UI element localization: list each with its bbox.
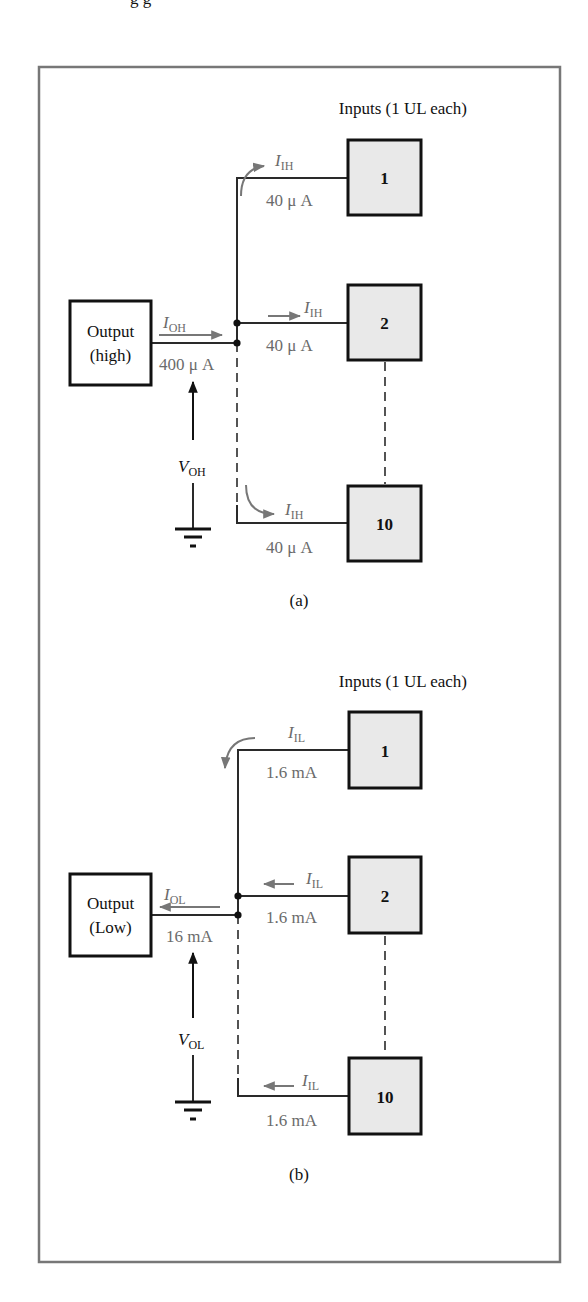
gate-label: 2 bbox=[380, 314, 389, 333]
inputs-title-b: Inputs (1 UL each) bbox=[339, 672, 467, 691]
output-label-line1: Output bbox=[87, 322, 135, 341]
output-label-line1: Output bbox=[87, 894, 135, 913]
junction-dot bbox=[233, 339, 240, 346]
current-value-iol: 16 mA bbox=[166, 927, 213, 946]
inputs-title-a: Inputs (1 UL each) bbox=[339, 99, 467, 118]
voltage-label-vol: VOL bbox=[178, 1030, 204, 1052]
curved-arrow-icon bbox=[246, 485, 274, 514]
current-label-iih: IIH bbox=[274, 151, 294, 173]
gate-label: 10 bbox=[376, 515, 393, 534]
output-label-line2: (high) bbox=[90, 346, 132, 365]
figure-b: Inputs (1 UL each) Output (Low) IOL 16 m… bbox=[70, 672, 467, 1184]
current-value-ioh: 400 μ A bbox=[159, 355, 215, 374]
current-value: 40 μ A bbox=[266, 538, 314, 557]
caption-b: (b) bbox=[289, 1165, 309, 1184]
current-label-ioh: IOH bbox=[162, 313, 186, 335]
ground-icon bbox=[175, 529, 211, 546]
current-label-iih: IIH bbox=[284, 500, 304, 522]
curved-arrow-icon bbox=[225, 738, 255, 768]
current-label-iil: IIL bbox=[301, 1071, 319, 1093]
current-label-iil: IIL bbox=[305, 869, 323, 891]
current-value: 40 μ A bbox=[266, 191, 314, 210]
caption-a: (a) bbox=[290, 591, 309, 610]
current-label-iih: IIH bbox=[303, 298, 323, 320]
ground-icon bbox=[175, 1102, 211, 1119]
current-label-iil: IIL bbox=[287, 723, 305, 745]
gate-label: 1 bbox=[381, 742, 390, 761]
junction-dot bbox=[233, 319, 240, 326]
current-value: 40 μ A bbox=[266, 336, 314, 355]
output-box-a bbox=[70, 301, 151, 385]
gate-label: 2 bbox=[381, 887, 390, 906]
current-value: 1.6 mA bbox=[266, 763, 318, 782]
current-label-iol: IOL bbox=[163, 885, 186, 907]
figure-a: Inputs (1 UL each) Output (high) IOH 400… bbox=[70, 99, 467, 610]
voltage-label-voh: VOH bbox=[178, 457, 206, 479]
figure-frame bbox=[39, 67, 560, 1262]
cut-off-text: g g bbox=[130, 0, 152, 8]
gate-label: 10 bbox=[377, 1088, 394, 1107]
output-box-b bbox=[70, 874, 151, 956]
curved-arrow-icon bbox=[241, 166, 264, 196]
gate-label: 1 bbox=[380, 169, 389, 188]
current-value: 1.6 mA bbox=[266, 1111, 318, 1130]
fanout-diagram: g g Inputs (1 UL each) Output (high) IOH… bbox=[0, 0, 588, 1302]
current-value: 1.6 mA bbox=[266, 908, 318, 927]
junction-dot bbox=[234, 892, 241, 899]
output-label-line2: (Low) bbox=[89, 918, 131, 937]
junction-dot bbox=[234, 911, 241, 918]
